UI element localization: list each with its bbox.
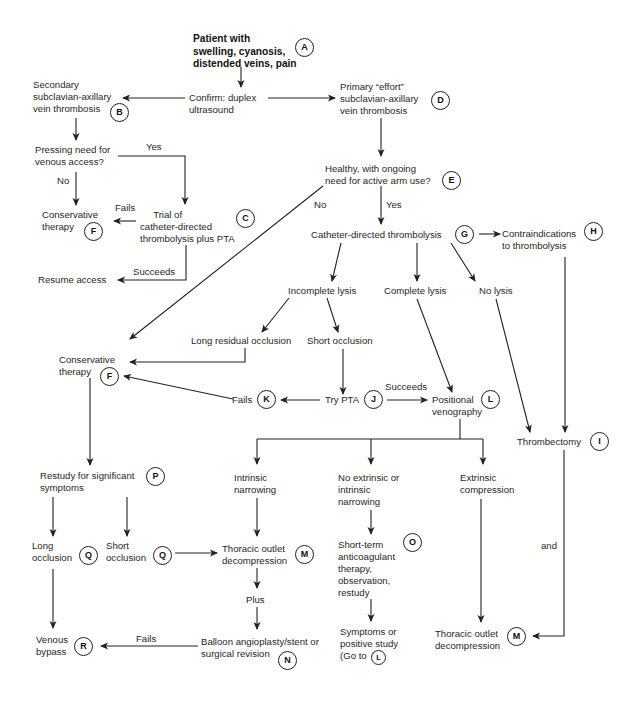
label-no-pressing: No <box>57 175 69 187</box>
label-fails-c: Fails <box>115 202 135 214</box>
arrow-nolysis-to-i <box>496 299 530 432</box>
badge-f-2: F <box>100 367 119 386</box>
node-try-pta: Try PTA <box>325 394 359 406</box>
arrow-g-to-incomplete <box>332 243 341 281</box>
badge-q-2: Q <box>153 546 172 565</box>
node-thrombectomy: Thrombectomy <box>517 436 581 448</box>
badge-c: C <box>236 209 255 228</box>
label-succeeds-c: Succeeds <box>133 266 175 278</box>
badge-n: N <box>278 651 297 670</box>
arrow-longres-to-f <box>130 348 245 362</box>
badge-b: B <box>110 103 129 122</box>
label-fails-n: Fails <box>136 633 156 645</box>
badge-m-2: M <box>507 627 526 646</box>
node-venous-bypass: Venous bypass <box>36 634 68 658</box>
badge-k: K <box>257 390 276 409</box>
node-catheter-directed-thrombolysis: Catheter-directed thrombolysis <box>311 229 442 241</box>
node-healthy-arm-use: Healthy, with ongoing need for active ar… <box>325 163 431 187</box>
node-pressing-need: Pressing need for venous access? <box>35 144 110 168</box>
flowchart: Patient with swelling, cyanosis, distend… <box>0 0 644 701</box>
node-primary-effort-thrombosis: Primary “effort” subclavian-axillary vei… <box>340 81 418 117</box>
badge-m-1: M <box>295 545 314 564</box>
arrow-g-to-nolysis <box>451 243 475 281</box>
badge-e: E <box>442 171 461 190</box>
node-symptoms-positive-study: Symptoms or positive study (Go to ) <box>340 626 398 662</box>
node-fails-k: Fails <box>232 394 252 406</box>
arrow-incomplete-to-longres <box>262 298 289 332</box>
node-resume-access: Resume access <box>38 274 106 286</box>
label-succeeds-pta: Succeeds <box>385 381 427 393</box>
label-and: and <box>541 540 557 552</box>
badge-a: A <box>295 38 314 57</box>
node-no-extrinsic-intrinsic: No extrinsic or intrinsic narrowing <box>338 472 399 508</box>
badge-j: J <box>364 390 383 409</box>
badge-d: D <box>431 91 450 110</box>
label-no-healthy: No <box>314 199 326 211</box>
node-extrinsic-compression: Extrinsic compression <box>460 472 514 496</box>
arrow-pressing-yes-to-c <box>118 156 185 204</box>
badge-r: R <box>74 637 93 656</box>
node-balloon-angioplasty: Balloon angioplasty/stent or surgical re… <box>201 636 319 660</box>
node-no-lysis: No lysis <box>479 285 513 297</box>
node-secondary-thrombosis: Secondary subclavian-axillary vein throm… <box>33 79 111 115</box>
node-contraindications: Contraindications to thrombolysis <box>502 228 576 252</box>
node-patient-presentation: Patient with swelling, cyanosis, distend… <box>193 33 297 71</box>
node-plus: Plus <box>246 594 265 606</box>
node-restudy: Restudy for significant symptoms <box>40 470 134 494</box>
badge-l: L <box>481 390 500 409</box>
node-intrinsic-narrowing: Intrinsic narrowing <box>234 472 276 496</box>
badge-h: H <box>584 222 603 241</box>
badge-l-goto: L <box>371 650 386 665</box>
node-long-residual-occlusion: Long residual occlusion <box>191 335 291 347</box>
node-trial-thrombolysis-pta: Trial of catheter-directed thrombolysis … <box>140 209 235 245</box>
arrow-incomplete-to-short <box>327 298 338 332</box>
badge-i: I <box>590 432 609 451</box>
node-thoracic-outlet-decompression-2: Thoracic outlet decompression <box>435 628 500 652</box>
node-short-occlusion: Short occlusion <box>307 335 373 347</box>
label-yes-pressing: Yes <box>146 141 162 153</box>
node-short-term-anticoagulant: Short-term anticoagulant therapy, observ… <box>338 539 395 599</box>
node-incomplete-lysis: Incomplete lysis <box>288 285 356 297</box>
node-complete-lysis: Complete lysis <box>384 285 446 297</box>
badge-f-1: F <box>84 222 103 241</box>
node-short-occlusion-q: Short occlusion <box>106 540 146 564</box>
node-long-occlusion: Long occlusion <box>32 540 72 564</box>
arrow-k-fails-to-f <box>124 376 233 399</box>
arrow-complete-to-l <box>417 299 452 392</box>
node-thoracic-outlet-decompression-1: Thoracic outlet decompression <box>222 543 287 567</box>
badge-p: P <box>146 467 165 486</box>
badge-o: O <box>403 533 422 552</box>
node-confirm-duplex: Confirm: duplex ultrasound <box>189 92 256 116</box>
node-positional-venography: Positional venography <box>432 394 482 418</box>
badge-q-1: Q <box>79 546 98 565</box>
label-yes-healthy: Yes <box>386 199 402 211</box>
badge-g: G <box>455 225 474 244</box>
